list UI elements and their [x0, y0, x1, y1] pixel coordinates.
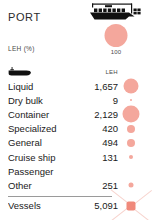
row-value: 1,657 — [78, 81, 118, 92]
table-row: Passenger — [0, 164, 152, 178]
row-label: Liquid — [8, 81, 78, 92]
row-bubble — [118, 107, 144, 121]
value-column-header: LEH — [78, 69, 118, 75]
row-bubble — [118, 150, 144, 164]
row-label: Other — [8, 180, 78, 191]
legend-bubble-wrap — [88, 24, 144, 48]
header: PORT 100 LEH (%) — [0, 0, 152, 60]
bubble-dot — [129, 183, 134, 188]
table-row: General494 — [0, 136, 152, 150]
table-row: Liquid1,657 — [0, 79, 152, 93]
row-bubble — [118, 164, 144, 178]
table-row: Cruise ship131 — [0, 150, 152, 164]
total-label: Vessels — [8, 200, 78, 211]
table-header-row: LEH — [0, 64, 152, 79]
page-title: PORT — [8, 11, 41, 23]
total-bubble-marker — [118, 199, 144, 213]
bubble-size-legend: 100 — [88, 2, 144, 55]
bubble-dot — [124, 79, 139, 94]
row-label: Passenger — [8, 166, 78, 177]
bubble-column-header — [118, 65, 144, 79]
row-label: Container — [8, 109, 78, 120]
unit-label: LEH (%) — [8, 45, 35, 52]
row-label: Specialized — [8, 123, 78, 134]
row-bubble — [118, 122, 144, 136]
bubble-dot — [130, 99, 132, 101]
ship-icon — [8, 67, 34, 76]
bubble-dot — [123, 106, 140, 123]
row-value: 494 — [78, 137, 118, 148]
table-body: Liquid1,657Dry bulk9Container2,129Specia… — [0, 79, 152, 193]
row-label: General — [8, 137, 78, 148]
legend-bubble — [105, 24, 128, 47]
row-bubble — [118, 178, 144, 192]
row-value: 420 — [78, 123, 118, 134]
total-divider — [8, 196, 112, 197]
row-label: Cruise ship — [8, 152, 78, 163]
container-ship-icon — [88, 2, 142, 23]
total-row: Vessels 5,091 — [0, 199, 152, 213]
legend-bubble-value: 100 — [88, 49, 144, 55]
marker-core — [127, 201, 136, 210]
vessel-type-table: LEH Liquid1,657Dry bulk9Container2,129Sp… — [0, 64, 152, 213]
row-bubble — [118, 136, 144, 150]
row-label: Dry bulk — [8, 95, 78, 106]
bubble-dot — [129, 155, 133, 159]
table-row: Container2,129 — [0, 107, 152, 121]
bubble-dot — [127, 125, 135, 133]
category-header — [8, 67, 78, 76]
total-value: 5,091 — [78, 200, 118, 211]
bubble-dot — [127, 139, 135, 147]
table-row: Specialized420 — [0, 122, 152, 136]
row-value: 2,129 — [78, 109, 118, 120]
row-value: 9 — [78, 95, 118, 106]
row-bubble — [118, 79, 144, 93]
table-row: Other251 — [0, 178, 152, 192]
row-value: 131 — [78, 152, 118, 163]
